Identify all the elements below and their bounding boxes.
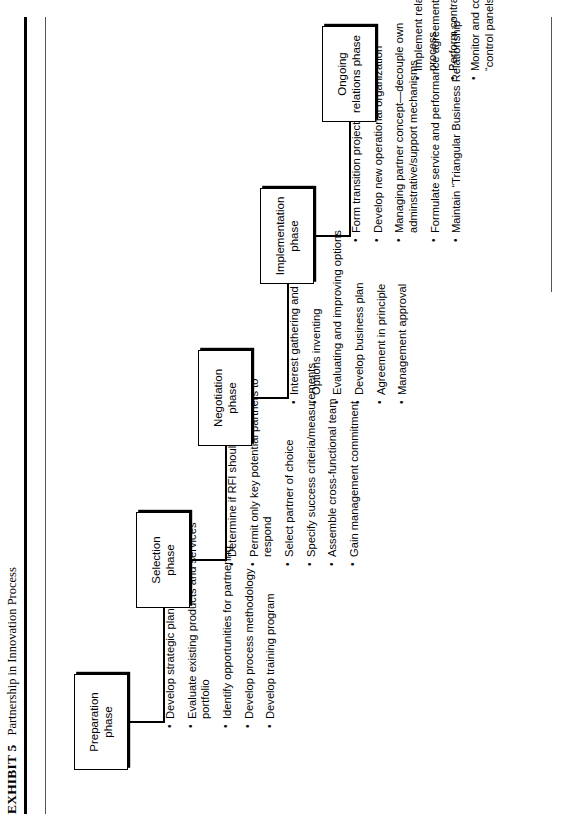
bullet-list-ongoing-relations: Implement relationship management proces… [412, 0, 504, 120]
rotated-page-canvas: EXHIBIT 5Partnership in Innovation Proce… [0, 0, 583, 832]
exhibit-tag: EXHIBIT 5 [4, 745, 19, 814]
list-item: Perform contract maintenance [447, 0, 461, 80]
phase-title-line2: phase [164, 544, 176, 575]
exhibit-caption: Partnership in Innovation Process [5, 567, 19, 744]
phase-title-line1: Selection [150, 536, 162, 583]
connector-implementation-to-ongoing [349, 122, 351, 237]
connector-negotiation-to-implementation [287, 284, 289, 399]
phase-title-line1: Ongoing [336, 52, 348, 95]
phase-title-line2: phase [288, 220, 300, 251]
header-rule-thick [24, 17, 27, 814]
connector-preparation-stem [128, 721, 164, 723]
phase-title-line1: Implementation [274, 197, 286, 276]
list-item: Implement relationship management proces… [412, 0, 439, 80]
phase-box-preparation[interactable]: Preparation phase [74, 674, 128, 770]
connector-preparation-to-selection [163, 608, 165, 723]
exhibit-title: EXHIBIT 5Partnership in Innovation Proce… [4, 567, 20, 814]
phase-box-ongoing-relations[interactable]: Ongoing relations phase [322, 26, 376, 122]
footer-rule [551, 17, 552, 292]
connector-selection-stem [190, 559, 226, 561]
exhibit-sheet: EXHIBIT 5Partnership in Innovation Proce… [0, 0, 583, 832]
connector-implementation-stem [314, 235, 350, 237]
phase-box-selection[interactable]: Selection phase [136, 512, 190, 608]
phase-title-line2: phase [102, 706, 114, 737]
phase-title-line1: Negotiation [212, 369, 224, 427]
connector-negotiation-stem [252, 397, 288, 399]
header-rule-thin [45, 17, 46, 814]
connector-selection-to-negotiation [225, 446, 227, 561]
phase-title-line2: relations phase [350, 35, 362, 113]
phase-box-negotiation[interactable]: Negotiation phase [198, 350, 252, 446]
list-item: Monitor and continuously enhance “contro… [469, 0, 496, 80]
phase-box-implementation[interactable]: Implementation phase [260, 188, 314, 284]
phase-title-line1: Preparation [88, 692, 100, 751]
list-item: Evaluating and improving options [331, 189, 345, 404]
phase-title-line2: phase [226, 382, 238, 413]
